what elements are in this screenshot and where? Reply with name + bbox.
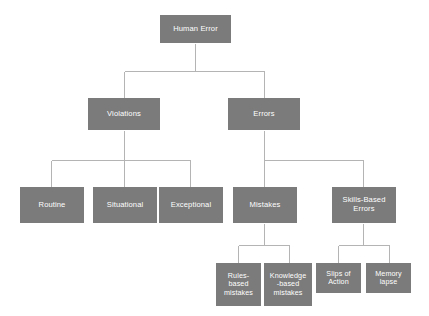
node-rules-based-mistakes-label: Rules- based mistakes [224, 272, 253, 297]
node-exceptional-label: Exceptional [171, 201, 211, 210]
node-routine-label: Routine [39, 201, 66, 210]
node-slips-of-action-label: Slips of Action [326, 270, 350, 287]
node-violations-label: Violations [107, 110, 141, 119]
node-errors-label: Errors [253, 110, 274, 119]
node-skills-based-errors-label: Skills-Based Errors [343, 196, 386, 214]
node-mistakes-label: Mistakes [250, 201, 281, 210]
node-knowledge-based-mistakes-label: Knowledge -based mistakes [270, 272, 306, 297]
node-slips-of-action: Slips of Action [316, 263, 361, 293]
node-routine: Routine [20, 187, 84, 223]
node-knowledge-based-mistakes: Knowledge -based mistakes [264, 263, 312, 306]
node-situational-label: Situational [107, 201, 144, 210]
human-error-diagram: Human Error Violations Errors Routine Si… [0, 0, 429, 316]
node-human-error: Human Error [160, 15, 231, 43]
node-violations: Violations [88, 98, 160, 130]
node-memory-lapse: Memory lapse [366, 263, 411, 293]
node-mistakes: Mistakes [233, 187, 297, 223]
node-rules-based-mistakes: Rules- based mistakes [216, 263, 261, 306]
node-situational: Situational [93, 187, 157, 223]
node-skills-based-errors: Skills-Based Errors [332, 187, 396, 223]
node-errors: Errors [228, 98, 300, 130]
node-human-error-label: Human Error [173, 25, 218, 34]
connector-lines [0, 0, 429, 316]
node-exceptional: Exceptional [159, 187, 223, 223]
node-memory-lapse-label: Memory lapse [375, 270, 402, 287]
